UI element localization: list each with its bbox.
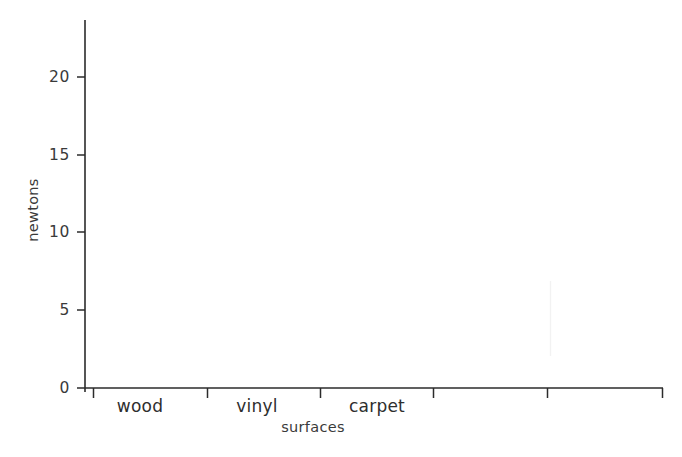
x-tick-label-carpet: carpet (349, 396, 405, 416)
y-tick-label-0: 0 (60, 379, 70, 397)
y-tick-label-10: 10 (49, 223, 70, 241)
y-tick-label-20: 20 (49, 68, 70, 86)
y-axis-title: newtons (25, 178, 41, 241)
x-axis-title: surfaces (281, 419, 345, 435)
y-tick-label-5: 5 (60, 301, 70, 319)
x-tick-label-vinyl: vinyl (236, 396, 277, 416)
chart-container: 20 15 10 5 0 newtons wood vinyl carpet s… (0, 0, 682, 457)
y-tick-label-15: 15 (49, 146, 70, 164)
x-tick-label-wood: wood (117, 396, 163, 416)
bar-chart-plot: 20 15 10 5 0 newtons wood vinyl carpet s… (0, 0, 682, 457)
